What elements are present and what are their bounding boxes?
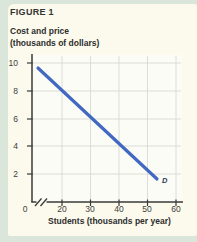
figure-title: FIGURE 1 (10, 7, 54, 17)
demand-curve-label: D (162, 176, 167, 185)
y-tick-4: 4 (0, 141, 18, 151)
x-tick-50: 50 (137, 204, 157, 214)
y-tick-10: 10 (0, 58, 18, 68)
y-tick-2: 2 (0, 169, 18, 179)
x-tick-0: 0 (15, 204, 35, 214)
x-tick-30: 30 (80, 204, 100, 214)
y-axis-title-line2: (thousands of dollars) (10, 38, 99, 50)
x-tick-20: 20 (52, 204, 72, 214)
y-axis-title: Cost and price (thousands of dollars) (10, 26, 99, 49)
x-tick-40: 40 (109, 204, 129, 214)
plot-area (32, 55, 182, 202)
x-tick-60: 60 (166, 204, 186, 214)
y-tick-6: 6 (0, 114, 18, 124)
y-tick-8: 8 (0, 86, 18, 96)
y-axis-title-line1: Cost and price (10, 26, 99, 38)
x-axis-title: Students (thousands per year) (48, 216, 171, 226)
